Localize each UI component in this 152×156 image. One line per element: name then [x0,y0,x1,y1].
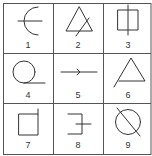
cell-label-5: 5 [68,90,88,100]
cell-label-2: 2 [68,40,88,50]
figure-grid: 1 2 3 4 5 6 7 8 9 [0,0,152,156]
figure-7-icon [19,109,38,135]
figure-6-icon [114,58,145,87]
cell-label-1: 1 [18,40,38,50]
figure-8-icon [68,114,91,134]
figure-2-line-2 [76,18,89,36]
figure-4-icon [13,61,45,83]
cell-label-6: 6 [118,90,138,100]
grid-lines [0,0,152,156]
figure-6-polyline-1 [114,58,145,87]
grid-border [4,4,152,155]
figure-3-icon [118,5,138,35]
cell-label-4: 4 [18,90,38,100]
cell-label-3: 3 [118,40,138,50]
figure-2-icon [66,7,92,36]
cell-label-8: 8 [68,140,88,150]
figure-4-circle-1 [13,61,35,83]
figure-7-rect-1 [19,114,38,135]
cell-label-7: 7 [18,140,38,150]
figure-1-icon [18,7,42,35]
figure-5-icon [61,69,97,75]
cell-label-9: 9 [118,140,138,150]
figure-9-icon [116,108,141,136]
